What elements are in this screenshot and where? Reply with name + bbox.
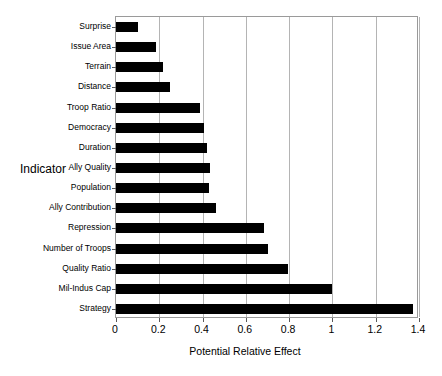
y-tick-label: Ally Contribution	[0, 203, 111, 212]
y-tick-label: Surprise	[0, 22, 111, 31]
bar-row	[116, 37, 419, 57]
x-tick-label: 1.4	[398, 324, 438, 335]
bar	[116, 203, 216, 213]
y-tick-label: Ally Quality	[0, 163, 111, 172]
x-axis-tick	[332, 318, 333, 322]
y-tick-label: Population	[0, 183, 111, 192]
bar-row	[116, 138, 419, 158]
x-tick-label: 0.2	[138, 324, 178, 335]
y-tick-label: Democracy	[0, 122, 111, 131]
y-tick-label: Number of Troops	[0, 243, 111, 252]
bar	[116, 62, 163, 72]
y-tick-label: Quality Ratio	[0, 263, 111, 272]
bar	[116, 284, 332, 294]
x-axis-tick	[246, 318, 247, 322]
y-tick-label: Terrain	[0, 62, 111, 71]
y-tick-label: Distance	[0, 82, 111, 91]
x-axis-title: Potential Relative Effect	[0, 345, 442, 357]
bar	[116, 22, 138, 32]
bar-row	[116, 279, 419, 299]
y-axis-tick	[112, 309, 116, 310]
gridline	[419, 17, 420, 317]
x-tick-label: 1.2	[355, 324, 395, 335]
bar	[116, 123, 204, 133]
y-axis-tick	[112, 188, 116, 189]
x-tick-label: 1	[311, 324, 351, 335]
bar	[116, 244, 268, 254]
bar-row	[116, 178, 419, 198]
x-tick-label: 0.6	[225, 324, 265, 335]
y-axis-tick	[112, 289, 116, 290]
bar	[116, 163, 210, 173]
bar	[116, 264, 288, 274]
bar-row	[116, 98, 419, 118]
y-tick-label: Strategy	[0, 304, 111, 313]
bar-row	[116, 77, 419, 97]
y-axis-tick	[112, 128, 116, 129]
bar-row	[116, 57, 419, 77]
bar	[116, 143, 207, 153]
y-axis-tick	[112, 228, 116, 229]
y-tick-label: Troop Ratio	[0, 102, 111, 111]
bar	[116, 183, 209, 193]
y-tick-label: Issue Area	[0, 42, 111, 51]
y-axis-tick	[112, 108, 116, 109]
y-axis-tick	[112, 27, 116, 28]
bar-row	[116, 198, 419, 218]
x-axis-tick	[116, 318, 117, 322]
y-axis-tick	[112, 148, 116, 149]
bar	[116, 103, 200, 113]
y-tick-label: Duration	[0, 143, 111, 152]
y-axis-tick	[112, 67, 116, 68]
y-axis-tick	[112, 269, 116, 270]
y-tick-label: Mil-Indus Cap	[0, 284, 111, 293]
y-axis-tick	[112, 87, 116, 88]
y-tick-label: Repression	[0, 223, 111, 232]
bar-row	[116, 218, 419, 238]
bar	[116, 223, 264, 233]
x-tick-label: 0	[95, 324, 135, 335]
x-axis-tick	[376, 318, 377, 322]
bar-row	[116, 17, 419, 37]
x-axis-tick	[289, 318, 290, 322]
bar	[116, 304, 413, 314]
bar-row	[116, 259, 419, 279]
bar-row	[116, 238, 419, 258]
y-axis-tick	[112, 168, 116, 169]
x-axis-tick	[159, 318, 160, 322]
x-tick-label: 0.4	[182, 324, 222, 335]
y-axis-tick	[112, 47, 116, 48]
x-tick-label: 0.8	[268, 324, 308, 335]
x-axis-tick	[203, 318, 204, 322]
y-axis-tick	[112, 208, 116, 209]
bar	[116, 82, 170, 92]
plot-area	[115, 16, 418, 318]
x-axis-tick	[419, 318, 420, 322]
bar-chart: Indicator Potential Relative Effect Surp…	[0, 0, 442, 376]
bar-row	[116, 299, 419, 319]
bar-row	[116, 158, 419, 178]
bar	[116, 42, 156, 52]
bar-row	[116, 118, 419, 138]
y-axis-tick	[112, 249, 116, 250]
